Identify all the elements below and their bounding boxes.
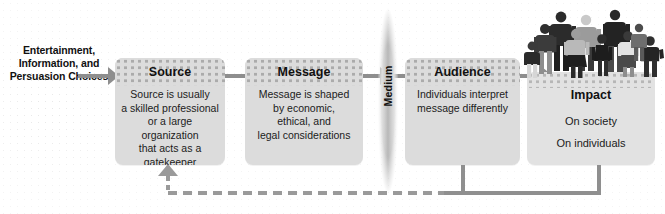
message-line-3: ethical, and [249,115,359,129]
message-line-1: Message is shaped [249,88,359,102]
message-heading: Message [245,65,363,79]
arrow-shaft [78,74,110,78]
impact-line-1: On society [531,110,651,132]
message-line-4: legal considerations [249,129,359,143]
audience-line-2: message differently [409,102,516,116]
source-line-3: or a large organization [119,115,221,142]
stage-box-impact: Impact On society On individuals [527,72,655,165]
audience-line-1: Individuals interpret [409,88,516,102]
impact-line-2: On individuals [531,132,651,154]
arrow-right-icon-intro-to-source [78,67,120,85]
stage-box-source: Source Source is usually a skilled profe… [115,58,225,165]
message-line-2: by economic, [249,102,359,116]
source-heading: Source [115,65,225,79]
audience-body: Individuals interpret message differentl… [409,88,516,115]
intro-line-1: Entertainment, [23,44,95,56]
background-dot-cluster-left [0,0,120,200]
feedback-line-vertical-dashed [166,176,170,194]
medium-label: Medium [382,53,394,119]
arrow-up-icon-feedback-to-source [158,164,178,176]
source-line-4: that acts as a [119,142,221,156]
source-line-1: Source is usually [119,88,221,102]
feedback-line-horizontal-dashed [168,191,444,195]
impact-heading: Impact [527,88,655,102]
impact-body: On society On individuals [531,110,651,154]
feedback-line-horizontal-solid [440,191,601,195]
source-body: Source is usually a skilled professional… [119,88,221,165]
source-line-2: a skilled professional [119,102,221,116]
intro-line-2: Information, [19,57,78,69]
stage-medium: Medium [377,8,399,194]
stage-box-message: Message Message is shaped by economic, e… [245,58,363,165]
people-group-icon [524,4,664,84]
diagram-canvas: Entertainment, Information, and Persuasi… [0,0,665,214]
message-body: Message is shaped by economic, ethical, … [249,88,359,142]
stage-box-audience: Audience Individuals interpret message d… [405,58,520,165]
source-line-5: gatekeeper [119,156,221,166]
audience-heading: Audience [405,65,520,79]
